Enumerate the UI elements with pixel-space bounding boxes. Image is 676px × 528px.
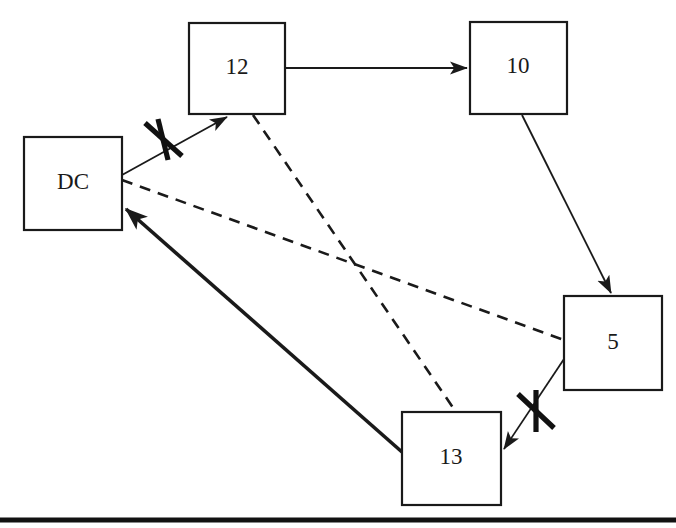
cross-icon-5-13 bbox=[518, 390, 554, 432]
node-link-diagram: DC 12 10 5 13 bbox=[0, 0, 676, 528]
node-10-label: 10 bbox=[507, 53, 530, 78]
blocked-marker-layer bbox=[145, 119, 554, 432]
node-5[interactable]: 5 bbox=[564, 296, 662, 390]
edge-10-to-5[interactable] bbox=[522, 115, 611, 293]
node-layer: DC 12 10 5 13 bbox=[24, 22, 662, 505]
node-12[interactable]: 12 bbox=[189, 23, 285, 114]
node-13[interactable]: 13 bbox=[402, 412, 501, 505]
diagram-canvas: DC 12 10 5 13 bbox=[0, 0, 676, 528]
node-12-label: 12 bbox=[226, 54, 249, 79]
node-13-label: 13 bbox=[440, 444, 463, 469]
node-dc[interactable]: DC bbox=[24, 137, 122, 230]
node-dc-label: DC bbox=[57, 169, 89, 194]
node-10[interactable]: 10 bbox=[470, 22, 567, 114]
node-5-label: 5 bbox=[607, 329, 619, 354]
edge-13-to-dc[interactable] bbox=[126, 209, 402, 452]
cross-icon-dc-12 bbox=[145, 119, 182, 160]
edge-dc-to-5-dashed[interactable] bbox=[122, 180, 564, 340]
edge-12-to-13-dashed[interactable] bbox=[253, 115, 456, 412]
